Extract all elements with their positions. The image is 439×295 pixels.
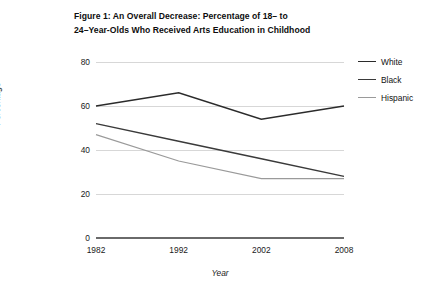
x-tick-2002: 2002 bbox=[238, 245, 284, 255]
plot-area bbox=[96, 62, 344, 238]
series-line-white bbox=[96, 93, 344, 119]
x-axis-line bbox=[96, 237, 344, 238]
x-tick-1982: 1982 bbox=[73, 245, 119, 255]
legend-label-hispanic: Hispanic bbox=[381, 93, 413, 103]
legend-swatch-white-icon bbox=[358, 61, 376, 62]
legend-swatch-black-icon bbox=[358, 79, 376, 80]
series-line-black bbox=[96, 124, 344, 177]
legend-label-black: Black bbox=[381, 75, 401, 85]
y-tick-60: 60 bbox=[50, 101, 90, 111]
legend-item-hispanic[interactable]: Hispanic bbox=[358, 90, 436, 105]
y-tick-40: 40 bbox=[50, 145, 90, 155]
y-tick-20: 20 bbox=[50, 189, 90, 199]
chart-title-line-1: Figure 1: An Overall Decrease: Percentag… bbox=[74, 10, 364, 24]
x-tick-1992: 1992 bbox=[156, 245, 202, 255]
legend-label-white: White bbox=[381, 57, 402, 67]
legend-item-white[interactable]: White bbox=[358, 54, 436, 69]
series-line-hispanic bbox=[96, 135, 344, 179]
y-tick-80: 80 bbox=[50, 57, 90, 67]
x-tick-2008: 2008 bbox=[321, 245, 367, 255]
figure-container: Figure 1: An Overall Decrease: Percentag… bbox=[0, 0, 439, 295]
x-axis-label: Year bbox=[96, 268, 344, 278]
chart-title-line-2: 24–Year-Olds Who Received Arts Education… bbox=[74, 24, 364, 38]
chart-title: Figure 1: An Overall Decrease: Percentag… bbox=[74, 10, 364, 37]
y-axis-label: Percentage bbox=[0, 82, 2, 125]
series-lines bbox=[96, 62, 344, 238]
y-tick-0: 0 bbox=[50, 233, 90, 243]
legend-swatch-hispanic-icon bbox=[358, 97, 376, 98]
legend-item-black[interactable]: Black bbox=[358, 72, 436, 87]
chart-legend: WhiteBlackHispanic bbox=[358, 54, 436, 108]
